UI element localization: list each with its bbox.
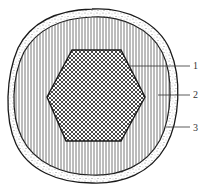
- label-2: 2: [193, 89, 198, 100]
- label-3: 3: [193, 122, 198, 133]
- cross-section-diagram: 1 2 3: [0, 0, 207, 195]
- label-1: 1: [193, 60, 198, 71]
